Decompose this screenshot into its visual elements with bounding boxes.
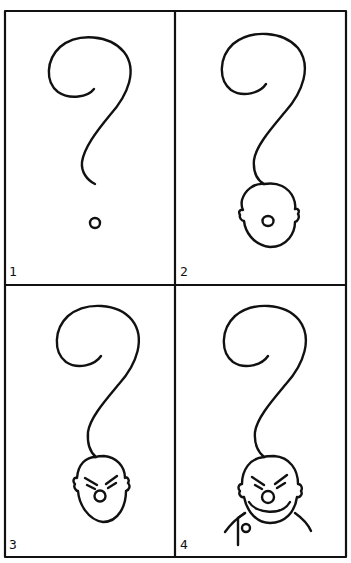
head-outline bbox=[74, 456, 130, 522]
nose bbox=[262, 491, 274, 503]
question-mark-curve bbox=[222, 34, 305, 184]
nose bbox=[95, 491, 106, 502]
panel-number-2: 2 bbox=[180, 264, 188, 279]
panel-number-3: 3 bbox=[9, 537, 17, 552]
button bbox=[242, 524, 250, 532]
panel-1 bbox=[49, 37, 131, 228]
left-eye bbox=[255, 485, 262, 489]
panel-4 bbox=[224, 306, 311, 545]
right-shoulder bbox=[295, 513, 311, 531]
panel-number-1: 1 bbox=[9, 264, 17, 279]
panel-2 bbox=[222, 34, 305, 247]
right-eye bbox=[277, 483, 285, 488]
panel-3 bbox=[57, 306, 139, 522]
nose bbox=[263, 216, 274, 226]
comic-strip bbox=[0, 0, 351, 563]
left-eye bbox=[87, 485, 95, 489]
panel-number-4: 4 bbox=[180, 537, 188, 552]
question-mark-curve bbox=[57, 306, 139, 457]
question-mark-curve bbox=[49, 37, 131, 184]
panel-frame bbox=[5, 11, 346, 557]
question-mark-curve bbox=[224, 306, 306, 457]
left-eyebrow bbox=[252, 477, 264, 485]
right-eye bbox=[108, 483, 116, 488]
question-mark-dot bbox=[90, 218, 100, 228]
